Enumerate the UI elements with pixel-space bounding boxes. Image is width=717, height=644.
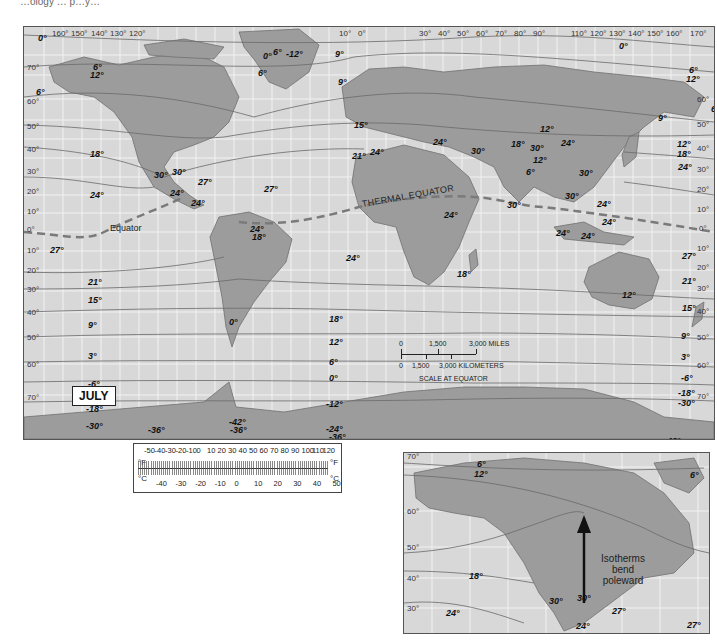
longitude-label: 40° [438, 29, 450, 38]
latitude-label: 10° [697, 244, 709, 253]
page-header-fragment: …ology … p…y… [20, 0, 100, 8]
equator-label: Equator [110, 223, 142, 233]
north-america-inset-map: 70° 60° 50° 40° 30° 6°12°6°18°30°30°27°2… [403, 452, 710, 634]
isotherm-value-label: 24° [556, 228, 570, 238]
latitude-label: 0° [699, 224, 707, 233]
isotherms-bend-poleward-note: Isotherms bend poleward [587, 553, 659, 586]
fahrenheit-tick-label: -10 [186, 446, 197, 455]
isotherm-value-label: 0° [38, 33, 47, 43]
note-line-1: Isotherms [587, 553, 659, 564]
fahrenheit-tick-label: 50 [249, 446, 257, 455]
isotherm-value-label: 12° [686, 74, 700, 84]
isotherm-value-label: 18° [677, 149, 691, 159]
isotherm-value-label: 15° [88, 295, 102, 305]
isotherm-value-label: 9° [335, 49, 344, 59]
isotherm-value-label: 12° [622, 290, 636, 300]
latitude-label: 30° [27, 285, 39, 294]
isotherm-value-label: 18° [469, 571, 483, 581]
minor-tick-marks [138, 461, 328, 475]
fahrenheit-tick-label: 40 [239, 446, 247, 455]
isotherm-value-label: 18° [511, 139, 525, 149]
scale-miles-1500: 1,500 [429, 340, 447, 347]
isotherm-value-label: 3° [681, 352, 690, 362]
isotherm-value-label: -36° [148, 425, 165, 435]
isotherm-value-label: 24° [170, 188, 184, 198]
longitude-label: 120° [590, 29, 607, 38]
isotherm-value-label: 27° [612, 606, 626, 616]
celsius-tick-label: -10 [215, 479, 226, 488]
celsius-tick-label: 20 [274, 479, 282, 488]
latitude-label: 30° [697, 284, 709, 293]
isotherm-value-label: 27° [264, 184, 278, 194]
isotherm-value-label: 0° [263, 51, 272, 61]
isotherm-value-label: 18° [457, 269, 471, 279]
fahrenheit-tick-label: 30 [228, 446, 236, 455]
inset-latitude-label: 30° [407, 604, 419, 613]
isotherm-value-label: 18° [329, 314, 343, 324]
longitude-label: 50° [457, 29, 469, 38]
world-july-isotherm-map: 160° 150° 140° 130° 120° 10° 0° 30° 40° … [23, 26, 715, 440]
fahrenheit-tick-label: 120 [323, 446, 336, 455]
isotherm-value-label: 12° [90, 70, 104, 80]
latitude-label: 70° [697, 392, 709, 401]
isotherm-value-label: 9° [338, 77, 347, 87]
scale-bar: 0 1,500 3,000 MILES 0 1,500 3,000 KILOME… [399, 340, 549, 400]
month-label: JULY [72, 386, 116, 406]
latitude-label: 60° [27, 97, 39, 106]
fahrenheit-tick-label: 60 [260, 446, 268, 455]
isotherm-value-label: -12° [286, 49, 303, 59]
scale-km-0: 0 [399, 362, 403, 369]
isotherm-value-label: 6° [690, 470, 699, 480]
isotherm-value-label: 0° [619, 41, 628, 51]
isotherm-value-label: 24° [191, 198, 205, 208]
isotherm-value-label: 30° [530, 143, 544, 153]
fahrenheit-tick-label: 20 [218, 446, 226, 455]
longitude-label: 110° [571, 29, 587, 38]
isotherm-value-label: 12° [540, 124, 554, 134]
longitude-label: 130° [110, 29, 127, 38]
longitude-label: 30° [419, 29, 431, 38]
latitude-label: 60° [27, 360, 39, 369]
latitude-label: 60° [697, 95, 709, 104]
isotherm-value-label: 15° [354, 120, 368, 130]
isotherm-value-label: -12° [326, 399, 343, 409]
scale-km-3000: 3,000 KILOMETERS [439, 362, 504, 369]
isotherm-value-label: 9° [658, 113, 667, 123]
scale-km-1500: 1,500 [412, 362, 430, 369]
celsius-tick-label: 10 [254, 479, 262, 488]
fahrenheit-tick-label: -50 [144, 446, 155, 455]
inset-latitude-label: 60° [407, 507, 419, 516]
isotherm-value-label: 9° [681, 331, 690, 341]
latitude-label: 40° [697, 307, 709, 316]
latitude-label: 50° [697, 120, 709, 129]
isotherm-value-label: 6° [477, 459, 486, 469]
isotherm-value-label: 24° [576, 621, 590, 631]
fahrenheit-tick-label: -20 [176, 446, 187, 455]
note-line-3: poleward [587, 575, 659, 586]
isotherm-value-label: 18° [90, 149, 104, 159]
isotherm-value-label: -54° [632, 437, 649, 440]
latitude-label: 50° [27, 333, 39, 342]
celsius-tick-label: -30 [176, 479, 187, 488]
inset-latitude-label: 40° [407, 574, 419, 583]
isotherm-value-label: 24° [446, 608, 460, 618]
isotherm-value-label: 6° [526, 167, 535, 177]
temperature-conversion-scale: °F °F °C °C -50-40-30-20-100102030405060… [133, 443, 342, 493]
isotherm-value-label: 24° [561, 138, 575, 148]
latitude-label: 10° [27, 246, 39, 255]
latitude-label: 20° [697, 185, 709, 194]
celsius-tick-label: 50 [332, 479, 340, 488]
isotherm-value-label: 27° [687, 620, 701, 630]
isotherm-value-label: 24° [433, 137, 447, 147]
fahrenheit-tick-label: 90 [291, 446, 299, 455]
isotherm-value-label: -36° [230, 425, 247, 435]
longitude-label: 150° [647, 29, 664, 38]
latitude-label: 10° [27, 207, 39, 216]
isotherm-value-label: 24° [444, 210, 458, 220]
scale-miles-0: 0 [399, 340, 403, 347]
isotherm-value-label: 6° [711, 104, 715, 114]
isotherm-value-label: 24° [602, 217, 616, 227]
latitude-label: 40° [27, 308, 39, 317]
latitude-label: 60° [697, 361, 709, 370]
latitude-label: 50° [27, 122, 39, 131]
